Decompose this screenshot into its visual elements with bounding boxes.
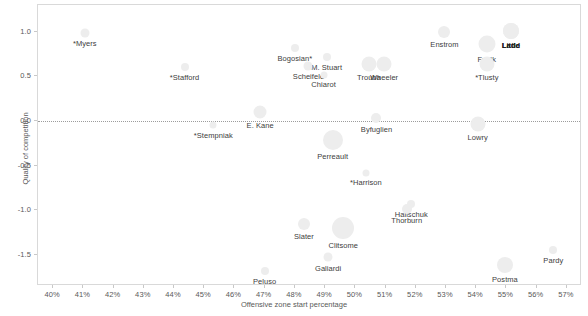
- x-axis-tick-label: 43%: [135, 290, 150, 299]
- x-axis-tick-label: 42%: [105, 290, 120, 299]
- data-point-bubble[interactable]: [261, 267, 269, 275]
- x-axis-tick-mark: [82, 285, 83, 288]
- data-point-bubble[interactable]: [323, 130, 343, 150]
- data-point-label: *Stafford: [170, 73, 200, 82]
- scatter-chart: 1.00.50.0-0.5-1.0-1.5 40%41%42%43%44%45%…: [0, 0, 588, 316]
- data-point-bubble[interactable]: [324, 253, 333, 262]
- data-point-bubble[interactable]: [298, 218, 310, 230]
- x-axis-tick-mark: [475, 285, 476, 288]
- y-axis-title: Quality of competition: [21, 89, 30, 209]
- data-point-bubble[interactable]: [503, 23, 519, 39]
- x-axis-tick-mark: [415, 285, 416, 288]
- data-point-label: Little: [502, 40, 520, 49]
- x-axis-tick-label: 52%: [407, 290, 422, 299]
- x-axis-tick-label: 50%: [347, 290, 362, 299]
- x-axis-tick-label: 45%: [196, 290, 211, 299]
- x-axis-tick-label: 46%: [226, 290, 241, 299]
- data-point-label: Perreault: [317, 151, 348, 160]
- x-axis-tick-label: 44%: [165, 290, 180, 299]
- x-axis-title: Offensive zone start percentage: [0, 300, 588, 309]
- x-axis-tick-mark: [445, 285, 446, 288]
- x-axis-tick-mark: [536, 285, 537, 288]
- x-axis-tick-mark: [52, 285, 53, 288]
- data-point-bubble[interactable]: [323, 53, 331, 61]
- plot-area: *Myers*StaffordBogosian*M. StuartScheife…: [37, 4, 581, 285]
- x-axis-tick-mark: [324, 285, 325, 288]
- data-point-label: Galiardi: [315, 263, 341, 272]
- data-point-bubble[interactable]: [332, 217, 354, 239]
- x-axis-tick-label: 47%: [256, 290, 271, 299]
- data-point-bubble[interactable]: [549, 246, 557, 254]
- x-axis-tick-label: 53%: [437, 290, 452, 299]
- data-point-bubble[interactable]: [479, 56, 494, 71]
- x-axis-tick-mark: [385, 285, 386, 288]
- x-axis-tick-mark: [173, 285, 174, 288]
- x-axis-tick-mark: [203, 285, 204, 288]
- x-axis-tick-mark: [264, 285, 265, 288]
- zero-reference-line: [38, 121, 580, 122]
- data-point-bubble[interactable]: [377, 56, 392, 71]
- x-axis-tick-label: 54%: [468, 290, 483, 299]
- data-point-label: Pardy: [543, 256, 563, 265]
- data-point-bubble[interactable]: [304, 61, 313, 70]
- data-point-label: *Tlusty: [475, 73, 498, 82]
- data-point-label: *Stempniak: [194, 130, 233, 139]
- data-point-bubble[interactable]: [470, 116, 485, 131]
- data-point-label: Enstrom: [430, 39, 458, 48]
- x-axis-tick-mark: [143, 285, 144, 288]
- data-point-label: Wheeler: [370, 73, 398, 82]
- x-axis-tick-mark: [294, 285, 295, 288]
- data-point-label: *Harrison: [350, 178, 382, 187]
- data-point-label: Peluso: [253, 276, 276, 285]
- x-axis-tick-label: 41%: [75, 290, 90, 299]
- data-point-label: Slater: [294, 232, 314, 241]
- data-point-label: Clitsome: [328, 241, 358, 250]
- data-point-bubble[interactable]: [254, 106, 267, 119]
- data-point-bubble[interactable]: [362, 169, 369, 176]
- x-axis-tick-label: 55%: [498, 290, 513, 299]
- data-point-label: Postma: [492, 275, 518, 284]
- data-point-bubble[interactable]: [497, 257, 513, 273]
- x-axis-tick-label: 40%: [44, 290, 59, 299]
- x-axis-tick-mark: [113, 285, 114, 288]
- data-point-bubble[interactable]: [210, 122, 217, 129]
- x-axis-tick-label: 49%: [316, 290, 331, 299]
- data-point-bubble[interactable]: [438, 26, 450, 38]
- data-point-label: M. Stuart: [311, 62, 342, 71]
- x-axis-tick-label: 57%: [558, 290, 573, 299]
- data-point-label: Byfuglien: [361, 125, 392, 134]
- data-point-bubble[interactable]: [80, 28, 89, 37]
- data-point-label: *Myers: [73, 39, 97, 48]
- data-point-bubble[interactable]: [181, 63, 189, 71]
- data-point-label: E. Kane: [247, 120, 274, 129]
- x-axis-tick-label: 56%: [528, 290, 543, 299]
- data-point-bubble[interactable]: [291, 44, 299, 52]
- data-point-bubble[interactable]: [320, 71, 327, 78]
- x-axis-tick-mark: [354, 285, 355, 288]
- data-point-bubble[interactable]: [478, 36, 495, 53]
- y-axis-tick-label: -1.5: [0, 249, 31, 258]
- x-axis-tick-mark: [233, 285, 234, 288]
- x-axis-tick-mark: [566, 285, 567, 288]
- data-point-label: Chiarot: [311, 80, 336, 89]
- data-point-label: Thorburn: [391, 216, 422, 225]
- y-axis-tick-label: 0.5: [0, 71, 31, 80]
- data-point-bubble[interactable]: [402, 204, 412, 214]
- x-axis-tick-label: 48%: [286, 290, 301, 299]
- data-point-bubble[interactable]: [371, 113, 381, 123]
- data-point-label: Lowry: [468, 133, 488, 142]
- data-point-bubble[interactable]: [361, 56, 376, 71]
- x-axis-tick-label: 51%: [377, 290, 392, 299]
- y-axis-tick-label: 1.0: [0, 26, 31, 35]
- x-axis-tick-mark: [505, 285, 506, 288]
